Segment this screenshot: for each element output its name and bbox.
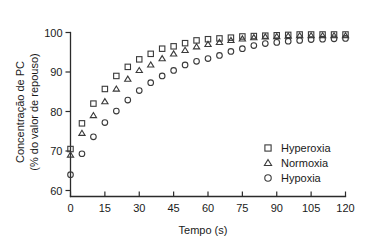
data-point-square: [194, 38, 199, 43]
data-point-circle: [240, 46, 246, 52]
data-point-circle: [125, 97, 131, 103]
data-point-square: [125, 64, 130, 69]
data-point-circle: [274, 40, 280, 46]
data-point-circle: [182, 62, 188, 68]
x-tick-label: 0: [67, 202, 73, 214]
data-point-triangle: [148, 62, 154, 67]
series-normoxia: [67, 33, 348, 157]
data-point-triangle: [170, 51, 176, 56]
data-point-circle: [91, 134, 97, 140]
x-tick-label: 75: [236, 202, 248, 214]
data-point-triangle: [136, 67, 142, 72]
data-point-circle: [136, 88, 142, 94]
x-tick-label: 105: [302, 202, 320, 214]
data-point-circle: [102, 120, 108, 126]
y-tick-label: 100: [44, 27, 62, 39]
y-tick-label: 90: [50, 66, 62, 78]
data-point-circle: [251, 43, 257, 49]
data-point-circle: [217, 53, 223, 59]
data-point-square: [79, 121, 84, 126]
data-point-circle: [205, 56, 211, 62]
data-point-square: [148, 51, 153, 56]
data-point-triangle: [182, 47, 188, 52]
data-point-square: [137, 57, 142, 62]
data-markers: [67, 32, 348, 178]
data-point-square: [171, 44, 176, 49]
x-axis-title: Tempo (s): [179, 224, 228, 236]
data-point-square: [114, 73, 119, 78]
data-point-triangle: [125, 76, 131, 81]
data-point-circle: [228, 49, 234, 55]
data-point-square: [159, 46, 164, 51]
legend-marker-square: [265, 145, 271, 151]
x-tick-label: 15: [99, 202, 111, 214]
y-tick-label: 80: [50, 106, 62, 118]
legend-label-normoxia: Normoxia: [281, 157, 329, 169]
legend-marker-triangle: [264, 160, 271, 166]
data-point-triangle: [90, 112, 96, 117]
data-point-triangle: [193, 44, 199, 49]
legend-label-hyperoxia: Hyperoxia: [281, 142, 331, 154]
chart-figure: 607080901000153045607590105120 Hyperoxia…: [0, 0, 366, 250]
legend-label-hypoxia: Hypoxia: [281, 172, 322, 184]
data-point-triangle: [79, 130, 85, 135]
data-point-square: [102, 86, 107, 91]
data-point-circle: [262, 41, 268, 47]
data-point-square: [182, 40, 187, 45]
y-axis-title-line1: Concentração de PC: [14, 61, 26, 163]
x-tick-label: 30: [133, 202, 145, 214]
x-tick-label: 90: [271, 202, 283, 214]
data-point-square: [91, 101, 96, 106]
legend-marker-circle: [265, 175, 271, 181]
axis-tick-labels: 607080901000153045607590105120: [44, 27, 355, 214]
y-axis-title-line2: (% do valor de repouso): [28, 53, 40, 170]
x-tick-label: 120: [336, 202, 354, 214]
data-point-circle: [159, 73, 165, 79]
data-point-triangle: [159, 56, 165, 61]
series-hyperoxia: [68, 32, 348, 152]
data-point-circle: [171, 68, 177, 74]
x-tick-label: 45: [168, 202, 180, 214]
data-point-circle: [285, 38, 291, 44]
chart-canvas: 607080901000153045607590105120 Hyperoxia…: [0, 0, 366, 250]
data-point-circle: [343, 36, 349, 42]
chart-legend: HyperoxiaNormoxiaHypoxia: [264, 142, 331, 184]
data-point-triangle: [102, 99, 108, 104]
data-point-circle: [194, 59, 200, 65]
data-point-triangle: [113, 86, 119, 91]
data-point-circle: [148, 80, 154, 86]
y-tick-label: 70: [50, 145, 62, 157]
data-point-circle: [79, 151, 85, 157]
y-tick-label: 60: [50, 185, 62, 197]
x-tick-label: 60: [202, 202, 214, 214]
data-point-circle: [114, 108, 120, 114]
data-point-circle: [297, 38, 303, 44]
